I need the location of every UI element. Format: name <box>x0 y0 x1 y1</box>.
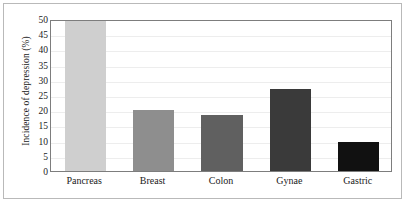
x-axis-category-label: Gynae <box>276 175 302 186</box>
bar <box>270 89 311 171</box>
plot-area <box>50 20 392 172</box>
y-axis-tick-label: 35 <box>26 61 48 71</box>
y-axis-tick-label: 25 <box>26 91 48 101</box>
y-axis-tick-labels: 05101520253035404550 <box>26 20 48 172</box>
y-axis-tick-label: 45 <box>26 30 48 40</box>
y-axis-tick-label: 30 <box>26 76 48 86</box>
y-axis-tick-label: 15 <box>26 121 48 131</box>
x-axis-category-label: Gastric <box>343 175 372 186</box>
bar <box>338 142 379 171</box>
y-axis-tick-label: 50 <box>26 15 48 25</box>
y-axis-tick-label: 20 <box>26 106 48 116</box>
x-axis-category-label: Breast <box>140 175 166 186</box>
bar <box>201 115 242 171</box>
bar-chart-figure: Incidence of depression (%) 051015202530… <box>0 0 405 202</box>
y-axis-tick-label: 5 <box>26 152 48 162</box>
y-axis-tick-label: 10 <box>26 137 48 147</box>
y-axis-tick-label: 0 <box>26 167 48 177</box>
bar <box>65 20 106 171</box>
x-axis-category-label: Pancreas <box>66 175 102 186</box>
x-axis-category-label: Colon <box>209 175 233 186</box>
bar-series <box>51 21 391 171</box>
x-axis-category-labels: PancreasBreastColonGynaeGastric <box>50 175 392 193</box>
bar <box>133 110 174 171</box>
y-axis-tick-label: 40 <box>26 45 48 55</box>
